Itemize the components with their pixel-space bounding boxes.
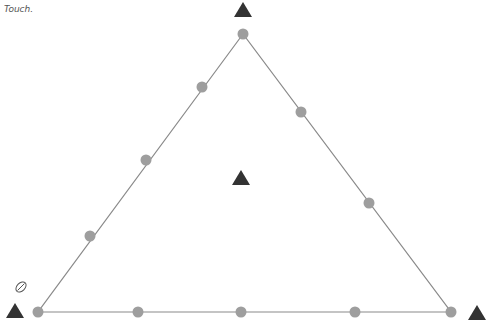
board-dot[interactable] (364, 198, 375, 209)
game-board[interactable] (0, 0, 489, 327)
right-marker-triangle-icon[interactable] (468, 305, 486, 320)
marker-group (6, 2, 486, 320)
board-dot[interactable] (296, 107, 307, 118)
board-dot[interactable] (197, 82, 208, 93)
center-marker-triangle-icon[interactable] (232, 170, 250, 185)
board-dot[interactable] (446, 307, 457, 318)
triangle-outline (38, 34, 451, 312)
top-marker-triangle-icon[interactable] (234, 2, 252, 17)
dot-group (33, 29, 457, 318)
board-dot[interactable] (141, 155, 152, 166)
board-dot[interactable] (33, 307, 44, 318)
board-dot[interactable] (236, 307, 247, 318)
left-marker-triangle-icon[interactable] (6, 303, 24, 318)
board-dot[interactable] (85, 231, 96, 242)
pencil-icon[interactable] (14, 279, 28, 293)
board-dot[interactable] (350, 307, 361, 318)
board-dot[interactable] (238, 29, 249, 40)
board-dot[interactable] (133, 307, 144, 318)
